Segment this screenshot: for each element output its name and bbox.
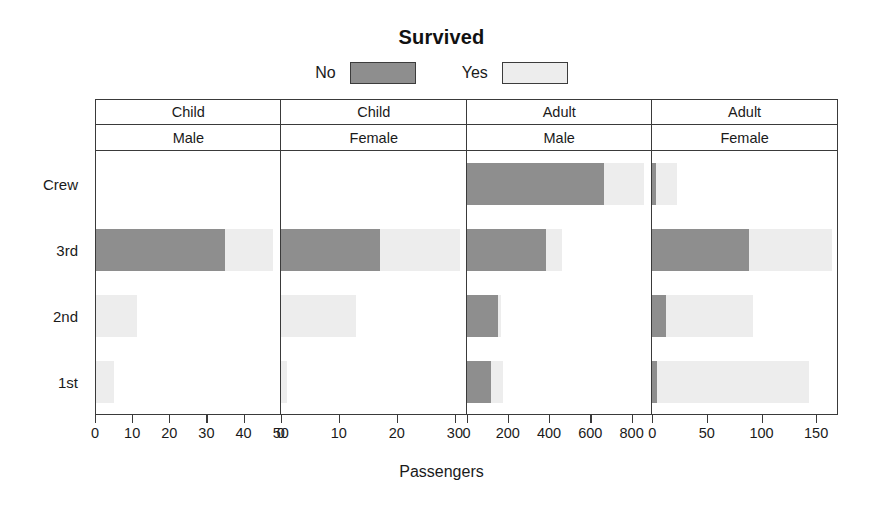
x-tick-mark	[455, 415, 456, 423]
bar-2nd	[467, 295, 501, 337]
legend-entry-no: No	[315, 62, 415, 84]
legend-swatch-yes	[502, 62, 568, 84]
bar-segment-no	[467, 229, 546, 271]
panel-adult-female	[651, 151, 838, 415]
bar-1st	[467, 361, 503, 403]
x-tick-label: 600	[578, 425, 602, 441]
x-axis-panel-0: 01020304050	[95, 415, 281, 455]
bar-segment-yes	[498, 295, 501, 337]
x-tick-label: 20	[389, 425, 405, 441]
bar-segment-no	[467, 295, 499, 337]
legend-entry-yes: Yes	[462, 62, 568, 84]
y-axis-label-1st: 1st	[58, 374, 78, 391]
bar-segment-yes	[666, 295, 753, 337]
bar-segment-yes	[656, 163, 678, 205]
bar-segment-no	[467, 163, 605, 205]
strip-row-sex: MaleFemaleMaleFemale	[95, 125, 838, 151]
legend: No Yes	[0, 62, 883, 84]
bar-segment-yes	[96, 295, 137, 337]
chart-title: Survived	[0, 26, 883, 49]
plot-area: ChildChildAdultAdult MaleFemaleMaleFemal…	[95, 99, 838, 415]
x-tick-label: 40	[236, 425, 252, 441]
x-tick-mark	[590, 415, 591, 423]
x-tick-mark	[508, 415, 509, 423]
x-tick-label: 0	[277, 425, 285, 441]
x-tick-mark	[762, 415, 763, 423]
x-tick-label: 100	[749, 425, 773, 441]
panel-child-female	[280, 151, 467, 415]
bar-1st	[652, 361, 808, 403]
x-tick-label: 10	[331, 425, 347, 441]
legend-label-no: No	[315, 64, 335, 82]
bar-segment-yes	[546, 229, 561, 271]
x-tick-label: 0	[91, 425, 99, 441]
bar-segment-yes	[380, 229, 461, 271]
bar-3rd	[281, 229, 460, 271]
x-tick-mark	[549, 415, 550, 423]
bar-segment-yes	[491, 361, 503, 403]
x-axis-panel-3: 050100150	[652, 415, 838, 455]
bar-segment-yes	[749, 229, 832, 271]
panel-child-male	[95, 151, 282, 415]
x-tick-label: 200	[496, 425, 520, 441]
bar-segment-yes	[281, 295, 356, 337]
bar-segment-yes	[281, 361, 287, 403]
bar-1st	[281, 361, 287, 403]
bar-segment-no	[96, 229, 225, 271]
x-tick-mark	[467, 415, 468, 423]
strip-cell-age-3: Adult	[651, 99, 838, 125]
x-tick-mark	[206, 415, 207, 423]
x-tick-label: 20	[161, 425, 177, 441]
x-tick-label: 50	[699, 425, 715, 441]
legend-label-yes: Yes	[462, 64, 488, 82]
strip-row-age: ChildChildAdultAdult	[95, 99, 838, 125]
strip-cell-sex-3: Female	[651, 125, 838, 151]
bar-segment-no	[652, 229, 749, 271]
x-axis-title: Passengers	[0, 463, 883, 481]
x-tick-mark	[816, 415, 817, 423]
bar-segment-yes	[96, 361, 114, 403]
x-tick-mark	[707, 415, 708, 423]
x-tick-label: 150	[804, 425, 828, 441]
x-tick-label: 30	[198, 425, 214, 441]
x-tick-label: 10	[124, 425, 140, 441]
bar-3rd	[652, 229, 831, 271]
strip-cell-sex-1: Female	[280, 125, 467, 151]
x-tick-mark	[95, 415, 96, 423]
x-tick-mark	[132, 415, 133, 423]
x-tick-label: 400	[537, 425, 561, 441]
bar-2nd	[281, 295, 356, 337]
bar-3rd	[467, 229, 562, 271]
x-tick-mark	[339, 415, 340, 423]
y-axis-label-crew: Crew	[43, 176, 78, 193]
y-axis-label-3rd: 3rd	[56, 242, 78, 259]
strip-cell-sex-2: Male	[466, 125, 653, 151]
bar-segment-no	[652, 295, 666, 337]
x-tick-label: 800	[620, 425, 644, 441]
bar-1st	[96, 361, 114, 403]
x-tick-label: 0	[648, 425, 656, 441]
x-tick-mark	[169, 415, 170, 423]
bar-crew	[652, 163, 677, 205]
panel-adult-male	[466, 151, 653, 415]
strip-cell-age-2: Adult	[466, 99, 653, 125]
bar-segment-yes	[604, 163, 643, 205]
x-tick-mark	[652, 415, 653, 423]
y-axis-label-2nd: 2nd	[53, 308, 78, 325]
bar-2nd	[652, 295, 753, 337]
x-axis-panel-1: 0102030	[281, 415, 467, 455]
bar-segment-yes	[657, 361, 809, 403]
strip-cell-sex-0: Male	[95, 125, 282, 151]
bar-crew	[467, 163, 644, 205]
bar-segment-yes	[225, 229, 273, 271]
y-axis-labels: Crew3rd2nd1st	[0, 151, 88, 415]
legend-swatch-no	[350, 62, 416, 84]
x-tick-mark	[244, 415, 245, 423]
bar-3rd	[96, 229, 273, 271]
panel-container	[95, 151, 838, 415]
x-tick-mark	[397, 415, 398, 423]
x-axis: 0102030405001020300200400600800050100150	[95, 415, 838, 455]
x-tick-label: 0	[462, 425, 470, 441]
bar-segment-no	[467, 361, 491, 403]
strip-cell-age-0: Child	[95, 99, 282, 125]
